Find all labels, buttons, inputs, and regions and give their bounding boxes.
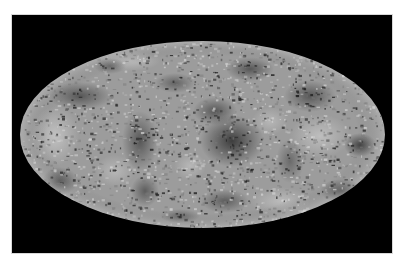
mollweide-sky-map xyxy=(20,41,385,228)
cmb-temperature-map xyxy=(20,41,385,228)
sky-map-panel xyxy=(12,15,392,253)
map-rim xyxy=(20,41,385,228)
